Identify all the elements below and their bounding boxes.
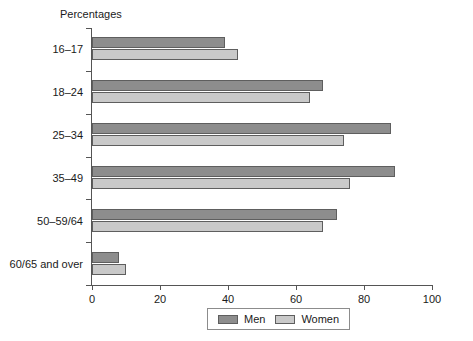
bar-women bbox=[92, 135, 344, 146]
y-tick bbox=[86, 157, 91, 158]
chart-title: Percentages bbox=[60, 8, 122, 20]
bar-group bbox=[92, 252, 432, 276]
x-tick-label: 60 bbox=[290, 293, 302, 305]
x-tick-100 bbox=[432, 285, 433, 290]
bar-men bbox=[92, 252, 119, 263]
legend-swatch-men-icon bbox=[218, 315, 238, 324]
x-axis-line bbox=[91, 285, 432, 286]
category-label: 35–49 bbox=[52, 172, 83, 184]
x-tick-label: 40 bbox=[222, 293, 234, 305]
legend-item-men[interactable]: Men bbox=[218, 313, 265, 325]
bar-women bbox=[92, 221, 323, 232]
x-tick-label: 20 bbox=[154, 293, 166, 305]
y-axis-line bbox=[91, 28, 92, 285]
chart-container: Percentages 020406080100 16–1718–2425–34… bbox=[0, 0, 473, 341]
x-tick-20 bbox=[160, 285, 161, 290]
bar-men bbox=[92, 37, 225, 48]
legend-label: Women bbox=[301, 313, 339, 325]
legend-swatch-women-icon bbox=[275, 315, 295, 324]
x-tick-80 bbox=[364, 285, 365, 290]
x-tick-40 bbox=[228, 285, 229, 290]
legend-label: Men bbox=[244, 313, 265, 325]
x-tick-label: 100 bbox=[423, 293, 441, 305]
bar-group bbox=[92, 123, 432, 147]
bar-women bbox=[92, 178, 350, 189]
category-label: 50–59/64 bbox=[37, 215, 83, 227]
category-label: 18–24 bbox=[52, 86, 83, 98]
bar-men bbox=[92, 80, 323, 91]
bar-men bbox=[92, 166, 395, 177]
bar-women bbox=[92, 49, 238, 60]
category-label: 25–34 bbox=[52, 129, 83, 141]
y-tick bbox=[86, 28, 91, 29]
bar-group bbox=[92, 166, 432, 190]
bar-group bbox=[92, 80, 432, 104]
bar-men bbox=[92, 123, 391, 134]
legend-item-women[interactable]: Women bbox=[275, 313, 339, 325]
bar-group bbox=[92, 209, 432, 233]
bar-women bbox=[92, 92, 310, 103]
chart-legend: MenWomen bbox=[207, 308, 350, 330]
category-label: 60/65 and over bbox=[10, 258, 83, 270]
x-tick-label: 80 bbox=[358, 293, 370, 305]
y-tick bbox=[86, 114, 91, 115]
category-label: 16–17 bbox=[52, 43, 83, 55]
bar-women bbox=[92, 264, 126, 275]
plot-area: 020406080100 16–1718–2425–3435–4950–59/6… bbox=[92, 28, 432, 285]
x-tick-label: 0 bbox=[89, 293, 95, 305]
x-tick-60 bbox=[296, 285, 297, 290]
y-tick bbox=[86, 199, 91, 200]
bar-group bbox=[92, 37, 432, 61]
y-tick bbox=[86, 285, 91, 286]
x-tick-0 bbox=[92, 285, 93, 290]
y-tick bbox=[86, 71, 91, 72]
bar-men bbox=[92, 209, 337, 220]
y-tick bbox=[86, 242, 91, 243]
